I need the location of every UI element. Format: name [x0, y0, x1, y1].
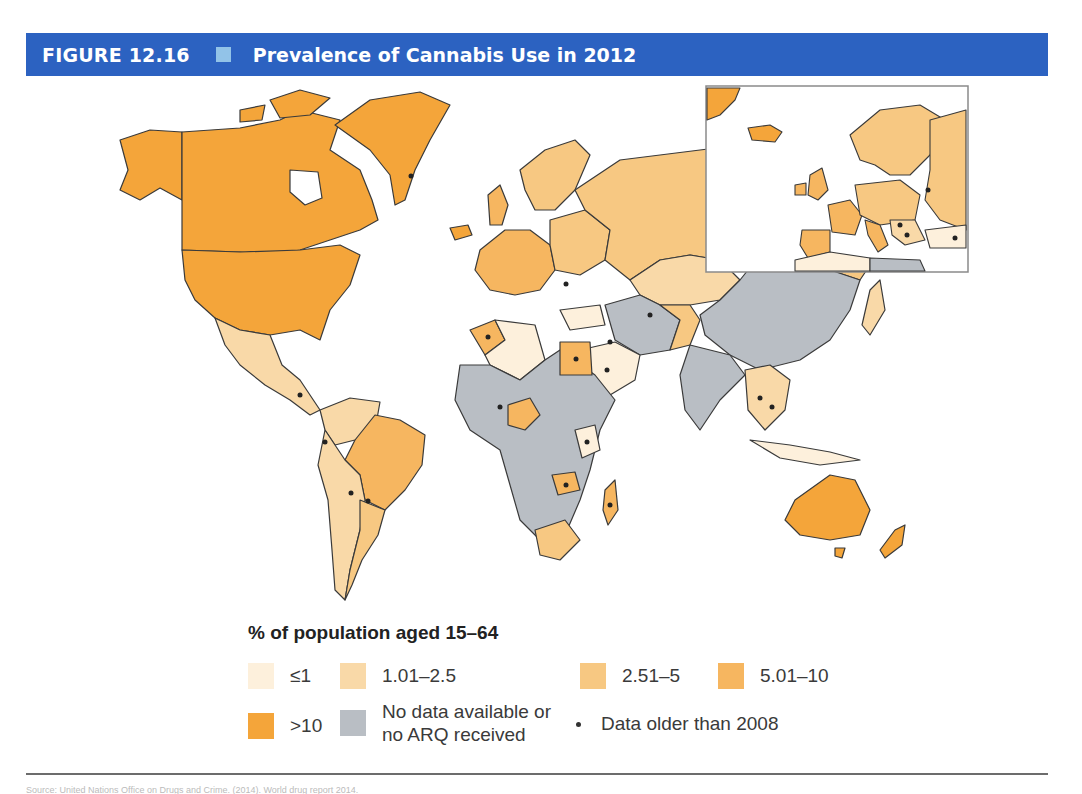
legend-item-no-data: No data available or no ARQ received [340, 700, 551, 746]
region-usa [182, 245, 360, 340]
europe-inset [706, 86, 968, 272]
legend-swatch [340, 663, 366, 689]
inset-ireland [795, 183, 806, 195]
legend-swatch [718, 663, 744, 689]
region-australia [785, 475, 870, 540]
figure-number: FIGURE 12.16 [42, 44, 190, 66]
region-western-europe [475, 230, 555, 295]
legend-label: >10 [290, 715, 322, 737]
legend-label: Data older than 2008 [601, 713, 778, 735]
legend-swatch [248, 663, 274, 689]
region-madagascar [603, 480, 618, 525]
region-uk [488, 185, 508, 225]
legend-item-1-2.5: 1.01–2.5 [340, 663, 456, 689]
legend-label: 2.51–5 [622, 665, 680, 687]
legend-label: 1.01–2.5 [382, 665, 456, 687]
region-alaska [120, 130, 182, 200]
legend-swatch [580, 663, 606, 689]
region-iceland [450, 225, 472, 240]
region-southeast-asia [745, 365, 790, 430]
map-legend: % of population aged 15–64 ≤1 1.01–2.5 2… [248, 622, 868, 762]
figure-title: Prevalence of Cannabis Use in 2012 [253, 44, 636, 66]
legend-swatch [248, 713, 274, 739]
legend-item-gt10: >10 [248, 713, 322, 739]
dot-marker-icon [576, 722, 581, 727]
legend-label: No data available or no ARQ received [382, 700, 551, 746]
legend-swatch [340, 710, 366, 736]
region-indonesia [750, 440, 860, 465]
legend-item-le1: ≤1 [248, 663, 311, 689]
legend-label: ≤1 [290, 665, 311, 687]
figure-header: FIGURE 12.16 Prevalence of Cannabis Use … [26, 33, 1048, 76]
region-turkey [560, 305, 605, 330]
source-note: Source: United Nations Office on Drugs a… [26, 785, 1056, 794]
world-map [0, 80, 1082, 610]
region-tasmania [835, 548, 845, 558]
legend-item-2.5-5: 2.51–5 [580, 663, 680, 689]
legend-item-older-data: Data older than 2008 [566, 713, 778, 735]
legend-title: % of population aged 15–64 [248, 622, 498, 644]
footer-divider [26, 773, 1048, 775]
header-square-icon [216, 47, 231, 62]
legend-item-5-10: 5.01–10 [718, 663, 829, 689]
region-japan [862, 280, 885, 335]
region-new-zealand [880, 525, 905, 558]
legend-label: 5.01–10 [760, 665, 829, 687]
inset-libya [870, 258, 925, 271]
